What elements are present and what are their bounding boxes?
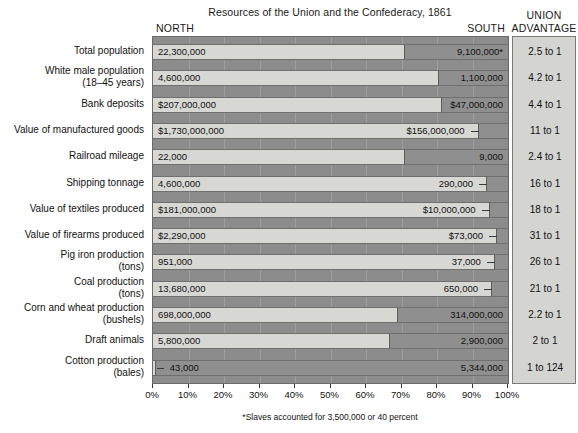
- union-advantage-value: 1 to 124: [513, 362, 577, 374]
- category-label: Bank deposits: [0, 98, 144, 110]
- north-value-label: 951,000: [153, 255, 192, 269]
- north-value-label: $2,290,000: [153, 229, 206, 243]
- category-label: White male population (18–45 years): [0, 65, 144, 89]
- south-bar: [487, 176, 508, 192]
- union-advantage-value: 16 to 1: [513, 178, 577, 190]
- bar-row: 698,000,000314,000,000: [153, 307, 508, 323]
- north-value-label: 22,300,000: [153, 45, 206, 59]
- leader-line: [489, 236, 497, 237]
- axis-tick: [223, 384, 224, 388]
- union-header-line1: UNION: [511, 9, 577, 22]
- north-value-label: 4,600,000: [153, 71, 200, 85]
- leader-line: [157, 368, 164, 369]
- bar-row: $2,290,000$73,000: [153, 228, 508, 244]
- south-value-label: $156,000,000: [406, 124, 469, 138]
- north-value-label: 13,680,000: [153, 282, 206, 296]
- bar-row: 43,0005,344,000: [153, 360, 508, 376]
- category-label: Shipping tonnage: [0, 177, 144, 189]
- south-value-label: $10,000,000: [423, 203, 481, 217]
- axis-tick: [401, 384, 402, 388]
- axis-tick: [259, 384, 260, 388]
- union-advantage-value: 4.2 to 1: [513, 72, 577, 84]
- leader-line: [484, 289, 492, 290]
- category-label: Railroad mileage: [0, 150, 144, 162]
- union-advantage-value: 2.4 to 1: [513, 151, 577, 163]
- category-label: Value of textiles produced: [0, 203, 144, 215]
- south-value-label: 290,000: [439, 177, 478, 191]
- north-bar: [153, 176, 487, 192]
- axis-tick-label: 100%: [495, 389, 519, 400]
- axis-tick-label: 60%: [355, 389, 374, 400]
- axis-tick-label: 0%: [145, 389, 159, 400]
- page-title: Resources of the Union and the Confedera…: [150, 6, 510, 18]
- north-value-label: 22,000: [153, 150, 187, 164]
- north-value-label: $207,000,000: [153, 98, 216, 112]
- north-value-label: $1,730,000,000: [153, 124, 224, 138]
- union-advantage-value: 26 to 1: [513, 256, 577, 268]
- union-advantage-value: 31 to 1: [513, 230, 577, 242]
- union-advantage-value: 2.2 to 1: [513, 309, 577, 321]
- south-value-label: $73,000: [449, 229, 488, 243]
- bar-row: 4,600,000290,000: [153, 176, 508, 192]
- category-label: Pig iron production (tons): [0, 249, 144, 273]
- category-label: Cotton production (bales): [0, 355, 144, 379]
- north-bar: [153, 149, 405, 165]
- union-advantage-value: 18 to 1: [513, 204, 577, 216]
- axis-tick-label: 90%: [462, 389, 481, 400]
- bar-row: 951,00037,000: [153, 254, 508, 270]
- axis-tick: [330, 384, 331, 388]
- south-value-label: 314,000,000: [450, 308, 508, 322]
- bar-row: 22,300,0009,100,000*: [153, 44, 508, 60]
- bar-row: 5,800,0002,900,000: [153, 333, 508, 349]
- south-bar: [479, 123, 508, 139]
- south-bar: [490, 202, 508, 218]
- axis-tick: [365, 384, 366, 388]
- north-value-label: 43,000: [165, 361, 199, 375]
- leader-line: [479, 184, 487, 185]
- bar-row: $181,000,000$10,000,000: [153, 202, 508, 218]
- axis-tick-label: 50%: [320, 389, 339, 400]
- south-value-label: 2,900,000: [461, 334, 508, 348]
- axis-tick: [152, 384, 153, 388]
- bar-row: 22,0009,000: [153, 149, 508, 165]
- category-label: Corn and wheat production (bushels): [0, 302, 144, 326]
- axis-tick-label: 20%: [213, 389, 232, 400]
- leader-line: [471, 131, 479, 132]
- south-value-label: 37,000: [452, 255, 486, 269]
- union-advantage-value: 2 to 1: [513, 335, 577, 347]
- south-bar: [495, 254, 508, 270]
- footnote: *Slaves accounted for 3,500,000 or 40 pe…: [150, 412, 510, 422]
- x-axis: 0%10%20%30%40%50%60%70%80%90%100%: [152, 384, 509, 406]
- axis-tick-label: 30%: [249, 389, 268, 400]
- north-value-label: 4,600,000: [153, 177, 200, 191]
- category-label: Total population: [0, 45, 144, 57]
- column-header-north: NORTH: [156, 22, 194, 34]
- axis-tick: [507, 384, 508, 388]
- category-label: Value of manufactured goods: [0, 124, 144, 136]
- south-bar: [156, 360, 508, 376]
- south-bar: [497, 228, 508, 244]
- axis-tick: [436, 384, 437, 388]
- union-advantage-value: 4.4 to 1: [513, 99, 577, 111]
- leader-line: [487, 262, 495, 263]
- axis-tick-label: 70%: [391, 389, 410, 400]
- axis-tick: [472, 384, 473, 388]
- axis-tick-label: 40%: [284, 389, 303, 400]
- north-bar: [153, 254, 495, 270]
- south-value-label: 5,344,000: [461, 361, 508, 375]
- axis-tick: [188, 384, 189, 388]
- south-value-label: 1,100,000: [461, 71, 508, 85]
- chart-page: Resources of the Union and the Confedera…: [0, 0, 578, 433]
- union-advantage-value: 2.5 to 1: [513, 46, 577, 58]
- column-header-south: SOUTH: [455, 22, 505, 34]
- axis-tick: [294, 384, 295, 388]
- south-value-label: 9,000: [479, 150, 508, 164]
- north-value-label: $181,000,000: [153, 203, 216, 217]
- south-bar: [492, 281, 508, 297]
- union-advantage-value: 11 to 1: [513, 125, 577, 137]
- bar-row: $207,000,000$47,000,000: [153, 97, 508, 113]
- bar-row: 4,600,0001,100,000: [153, 70, 508, 86]
- column-header-union-advantage: UNION ADVANTAGE: [511, 9, 577, 35]
- plot-area: 22,300,0009,100,000*4,600,0001,100,000$2…: [152, 36, 509, 384]
- category-label: Coal production (tons): [0, 276, 144, 300]
